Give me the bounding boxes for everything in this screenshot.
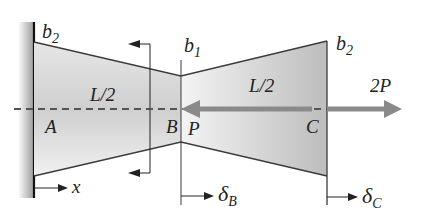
- cutting-plane-arrow-top: [128, 40, 140, 48]
- label-2P: 2P: [370, 75, 392, 96]
- label-A: A: [43, 116, 57, 137]
- label-deltaB: δB: [218, 181, 237, 209]
- load-2P-arrowhead: [384, 100, 402, 118]
- label-b1: b1: [184, 34, 201, 60]
- x-arrowhead: [58, 184, 68, 192]
- deltaB-arrowhead: [204, 192, 214, 200]
- label-b2-right: b2: [336, 32, 353, 58]
- label-deltaC: δC: [362, 183, 382, 211]
- label-x: x: [71, 176, 81, 197]
- label-L2-left: L/2: [89, 84, 116, 105]
- label-b2-left: b2: [42, 20, 59, 46]
- deltaC-arrowhead: [348, 193, 358, 201]
- label-C: C: [306, 116, 319, 137]
- cutting-plane-arrow-bottom: [128, 169, 140, 177]
- label-L2-right: L/2: [248, 75, 275, 96]
- tapered-bar-diagram: b2 b1 b2 L/2 L/2 A B P C 2P x δB δC: [0, 0, 422, 218]
- label-B: B: [166, 116, 178, 137]
- label-P: P: [187, 118, 200, 139]
